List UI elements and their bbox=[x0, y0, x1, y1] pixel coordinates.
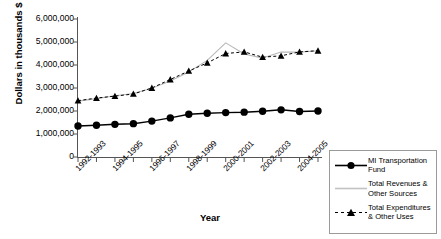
series-total-expenditures bbox=[75, 47, 322, 103]
legend-label: Total Expenditures & Other Uses bbox=[368, 203, 430, 221]
legend-label: Total Revenues & Other Sources bbox=[368, 179, 428, 197]
chart-figure: Dollars in thousands $ 6,000,000 5,000,0… bbox=[0, 0, 441, 239]
series-mi-transportation-fund bbox=[74, 106, 321, 129]
x-axis-title: Year bbox=[150, 212, 270, 223]
line-triangle-key bbox=[334, 204, 368, 215]
legend-item-mi-transportation-fund: MI Transportation Fund bbox=[334, 156, 432, 174]
line-circle-key bbox=[334, 157, 368, 168]
line-gray-key bbox=[334, 180, 368, 191]
axis-lines bbox=[77, 17, 322, 158]
legend-item-total-expenditures: Total Expenditures & Other Uses bbox=[334, 203, 432, 221]
legend-label: MI Transportation Fund bbox=[368, 156, 427, 174]
chart-legend: MI Transportation Fund Total Revenues & … bbox=[329, 150, 437, 234]
series-total-revenues bbox=[78, 43, 318, 101]
legend-item-total-revenues: Total Revenues & Other Sources bbox=[334, 179, 432, 197]
